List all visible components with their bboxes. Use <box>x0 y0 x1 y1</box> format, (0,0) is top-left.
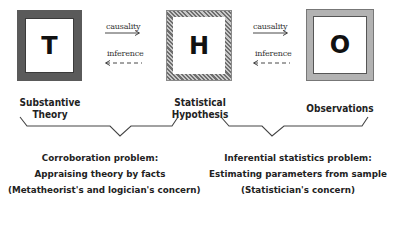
caption-corroboration: Corroboration problem: Appraising theory… <box>8 150 192 198</box>
arrow-left-dashed-icon <box>254 61 291 66</box>
caption-title: Corroboration problem: <box>8 150 192 166</box>
label-line: Theory <box>18 109 83 121</box>
arrow-right-icon <box>253 31 288 36</box>
caption-title: Inferential statistics problem: <box>208 150 388 166</box>
caption-inferential-statistics: Inferential statistics problem: Estimati… <box>208 150 388 198</box>
caption-subtitle: Estimating parameters from sample <box>208 166 388 182</box>
label-line: Substantive <box>18 97 83 109</box>
label-line: Hypothesis <box>164 109 236 121</box>
caption-concern: (Statistician's concern) <box>208 182 388 198</box>
label-substantive-theory: Substantive Theory <box>18 97 83 121</box>
label-line: Statistical <box>164 97 236 109</box>
arrow-right-icon <box>105 31 140 36</box>
caption-concern: (Metatheorist's and logician's concern) <box>8 182 192 198</box>
label-observations: Observations <box>304 103 376 115</box>
label-statistical-hypothesis: Statistical Hypothesis <box>164 97 236 121</box>
arrow-left-dashed-icon <box>106 61 143 66</box>
caption-subtitle: Appraising theory by facts <box>8 166 192 182</box>
label-line: Observations <box>304 103 376 115</box>
brace-right <box>221 117 368 136</box>
